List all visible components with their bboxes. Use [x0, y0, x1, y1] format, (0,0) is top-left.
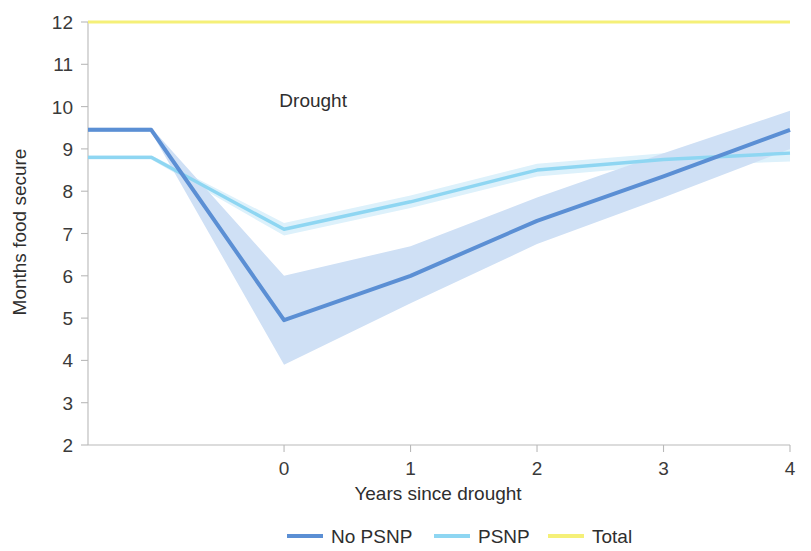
- confidence-band-no-psnp: [88, 111, 790, 365]
- x-tick-label: 4: [785, 458, 796, 479]
- x-axis-tick-labels: 01234: [279, 458, 796, 479]
- legend-item-no-psnp: No PSNP: [287, 526, 412, 547]
- y-tick-label: 3: [62, 393, 73, 414]
- y-tick-label: 8: [62, 181, 73, 202]
- x-axis-title: Years since drought: [354, 483, 522, 504]
- y-tick-label: 2: [62, 435, 73, 456]
- y-axis-tick-labels: 23456789101112: [52, 12, 74, 456]
- y-tick-label: 9: [62, 139, 73, 160]
- chart-legend: No PSNP PSNP Total: [287, 526, 632, 547]
- y-tick-label: 6: [62, 266, 73, 287]
- drought-annotation: Drought: [279, 90, 347, 111]
- food-security-line-chart: 23456789101112 01234 Drought Years since…: [0, 0, 811, 551]
- confidence-bands: [88, 111, 790, 365]
- x-axis-ticks: [284, 445, 790, 452]
- y-axis-ticks: [81, 22, 88, 445]
- x-tick-label: 1: [405, 458, 416, 479]
- legend-item-psnp: PSNP: [434, 526, 530, 547]
- chart-container: 23456789101112 01234 Drought Years since…: [0, 0, 811, 551]
- x-tick-label: 3: [658, 458, 669, 479]
- y-tick-label: 12: [52, 12, 73, 33]
- y-tick-label: 4: [62, 350, 73, 371]
- x-tick-label: 2: [532, 458, 543, 479]
- legend-label-psnp: PSNP: [478, 526, 530, 547]
- x-tick-label: 0: [279, 458, 290, 479]
- legend-label-no-psnp: No PSNP: [331, 526, 412, 547]
- y-tick-label: 10: [52, 97, 73, 118]
- y-tick-label: 11: [53, 54, 73, 75]
- y-tick-label: 7: [62, 224, 73, 245]
- y-tick-label: 5: [62, 308, 73, 329]
- legend-label-total: Total: [592, 526, 632, 547]
- y-axis-title: Months food secure: [9, 149, 30, 316]
- legend-item-total: Total: [548, 526, 632, 547]
